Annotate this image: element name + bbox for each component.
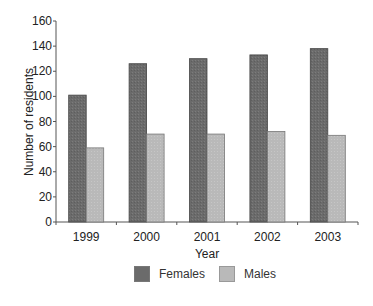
males-swatch — [219, 266, 235, 282]
bar-males-2002 — [267, 132, 285, 222]
bar-males-2000 — [147, 134, 165, 222]
x-tick-label: 2003 — [314, 230, 341, 244]
legend: Females Males — [134, 266, 290, 282]
y-tick-label: 140 — [32, 39, 52, 53]
x-axis-label: Year — [195, 247, 219, 261]
bar-females-2003 — [310, 49, 328, 222]
x-axis: 19992000200120022003 — [56, 222, 358, 244]
y-tick-label: 20 — [39, 190, 53, 204]
bar-females-1999 — [69, 95, 87, 222]
bar-females-2002 — [250, 55, 268, 222]
y-tick-label: 160 — [32, 14, 52, 28]
x-tick-label: 2001 — [194, 230, 221, 244]
females-swatch — [134, 266, 150, 282]
legend-label-females: Females — [159, 267, 205, 281]
y-tick-label: 60 — [39, 140, 53, 154]
bar-males-2001 — [207, 134, 225, 222]
chart-canvas: 020406080100120140160 199920002001200220… — [0, 0, 373, 306]
legend-item-females: Females — [134, 266, 205, 282]
y-axis-label: Number of residents — [22, 68, 36, 176]
bar-chart: 020406080100120140160 199920002001200220… — [0, 0, 373, 306]
bar-females-2001 — [190, 59, 208, 222]
legend-item-males: Males — [219, 266, 276, 282]
legend-label-males: Males — [244, 267, 276, 281]
y-tick-label: 0 — [45, 215, 52, 229]
x-tick-label: 2000 — [133, 230, 160, 244]
x-tick-label: 1999 — [73, 230, 100, 244]
x-tick-label: 2002 — [254, 230, 281, 244]
y-tick-label: 40 — [39, 165, 53, 179]
bar-females-2000 — [129, 64, 147, 222]
bar-males-2003 — [328, 135, 346, 222]
bars — [69, 49, 346, 222]
y-tick-label: 80 — [39, 115, 53, 129]
bar-males-1999 — [86, 148, 104, 222]
